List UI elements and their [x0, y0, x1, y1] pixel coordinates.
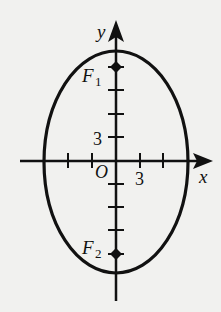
y-axis-label: y [95, 21, 106, 42]
focus-f1-label: F 1 [81, 65, 102, 89]
ellipse-diagram: y x O 3 3 F 1 F 2 [0, 0, 221, 312]
x-axis-label: x [198, 166, 208, 187]
x-tick-label: 3 [135, 169, 144, 189]
y-tick-label: 3 [93, 129, 102, 149]
svg-text:F: F [81, 237, 94, 258]
svg-text:F: F [81, 65, 94, 86]
origin-label: O [95, 162, 108, 182]
focus-f2-marker [108, 248, 124, 260]
svg-text:2: 2 [95, 246, 102, 261]
svg-text:1: 1 [95, 74, 102, 89]
focus-f2-label: F 2 [81, 237, 102, 261]
focus-f1-marker [108, 61, 124, 73]
